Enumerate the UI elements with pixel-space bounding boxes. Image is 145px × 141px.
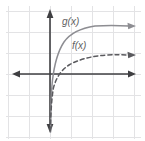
coordinate-plane: g(x) f(x) xyxy=(0,0,145,141)
curve-f-label: f(x) xyxy=(72,40,86,51)
graph-figure: g(x) f(x) xyxy=(0,0,145,141)
curve-g-label: g(x) xyxy=(62,16,79,27)
